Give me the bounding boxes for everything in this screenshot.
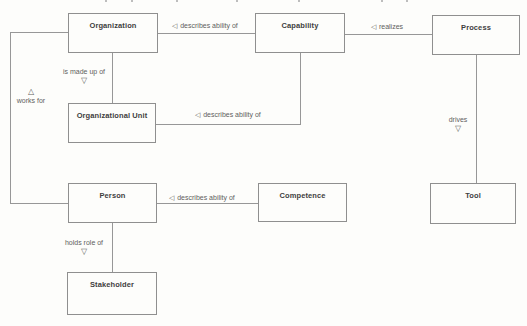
node-capability: Capability [255, 13, 345, 53]
node-stakeholder-label: Stakeholder [68, 273, 156, 289]
edge-label-text: works for [17, 97, 45, 105]
edge-label-process-drives-tool: drives ▽ [449, 116, 468, 133]
edge-label-capability-describes-organization: ◁ describes ability of [172, 22, 238, 30]
edge-label-process-realizes-capability: ◁ realizes [371, 23, 403, 31]
open-triangle-down-icon: ▽ [81, 248, 87, 256]
diagram-canvas: Organization Capability Process Organiza… [0, 0, 527, 326]
open-triangle-left-icon: ◁ [195, 111, 200, 119]
open-triangle-down-icon: ▽ [455, 125, 461, 133]
open-triangle-down-icon: ▽ [81, 77, 87, 85]
edge-label-text: describes ability of [180, 22, 238, 30]
node-organizational-unit: Organizational Unit [68, 103, 156, 143]
node-competence: Competence [258, 183, 347, 222]
node-person-label: Person [69, 184, 156, 200]
node-organization: Organization [68, 13, 158, 53]
edge-label-competence-describes-person: ◁ describes ability of [169, 194, 235, 202]
open-triangle-up-icon: △ [28, 88, 34, 96]
node-tool: Tool [430, 183, 516, 224]
open-triangle-left-icon: ◁ [371, 23, 376, 31]
edge-label-organization-is-made-up-of: is made up of ▽ [63, 68, 105, 85]
edge-person-organization-line [11, 33, 69, 204]
node-stakeholder: Stakeholder [67, 272, 157, 315]
node-competence-label: Competence [259, 184, 346, 200]
edge-label-text: drives [449, 116, 468, 124]
edge-label-text: describes ability of [203, 111, 261, 119]
edge-label-person-holds-role-of: holds role of ▽ [65, 239, 103, 256]
edge-label-text: describes ability of [177, 194, 235, 202]
open-triangle-left-icon: ◁ [169, 194, 174, 202]
node-process: Process [432, 15, 520, 55]
node-capability-label: Capability [256, 14, 344, 30]
edge-label-text: holds role of [65, 239, 103, 247]
edge-label-capability-describes-org-unit: ◁ describes ability of [195, 111, 261, 119]
open-triangle-left-icon: ◁ [172, 22, 177, 30]
node-process-label: Process [433, 16, 519, 32]
node-person: Person [68, 183, 157, 223]
edge-label-text: is made up of [63, 68, 105, 76]
edge-label-text: realizes [379, 23, 403, 31]
edge-label-person-works-for: △ works for [17, 88, 45, 105]
node-organizational-unit-label: Organizational Unit [69, 104, 155, 120]
node-organization-label: Organization [69, 14, 157, 30]
node-tool-label: Tool [431, 184, 515, 200]
